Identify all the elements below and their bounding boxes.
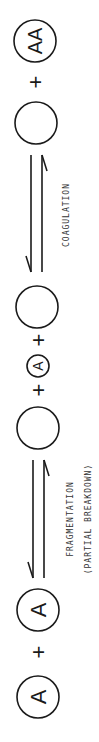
fragmentation-sublabel: (PARTIAL BREAKDOWN) [84,464,93,575]
reactant-particle-a-2: A [17,589,59,631]
fragmentation-arrow [28,460,49,578]
intermediate-small-particle-a: A [27,355,49,377]
intermediate-particle-2 [16,286,58,328]
fragmentation-label: FRAGMENTATION [66,481,75,557]
plus-operator: + [23,76,48,89]
diagram-canvas: A + A FRAGMENTATION (PARTIAL BREAKDOWN) … [0,0,99,742]
particle-label: A [26,602,51,617]
particle-label: AA [24,27,46,54]
product-particle-aa: AA [14,20,56,62]
particle-label: A [30,361,46,371]
particle-label: A [26,689,51,704]
product-particle [15,102,57,144]
reactant-particle-a-1: A [17,676,59,718]
coagulation-arrow [26,155,47,272]
intermediate-particle-1 [17,407,59,449]
plus-operator: + [26,384,51,397]
plus-operator: + [26,334,51,347]
plus-operator: + [26,646,51,659]
coagulation-label: COAGULATION [62,183,71,247]
